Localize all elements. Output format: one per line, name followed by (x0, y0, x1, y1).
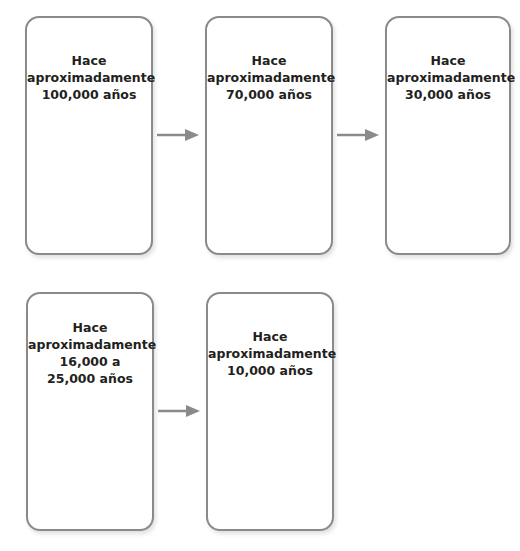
timeline-box-1-label: Hace aproximadamente 100,000 años (27, 52, 151, 103)
timeline-box-3: Hace aproximadamente 30,000 años (385, 16, 511, 255)
timeline-box-5-label: Hace aproximadamente 10,000 años (208, 328, 332, 379)
timeline-box-2-label: Hace aproximadamente 70,000 años (207, 52, 331, 103)
timeline-box-3-label: Hace aproximadamente 30,000 años (387, 52, 509, 103)
timeline-box-5: Hace aproximadamente 10,000 años (206, 292, 334, 531)
timeline-box-4: Hace aproximadamente 16,000 a 25,000 año… (26, 292, 154, 531)
arrow-right-icon (157, 127, 199, 143)
arrow-right-icon (337, 127, 379, 143)
timeline-box-2: Hace aproximadamente 70,000 años (205, 16, 333, 255)
timeline-box-4-label: Hace aproximadamente 16,000 a 25,000 año… (28, 319, 152, 387)
timeline-box-1: Hace aproximadamente 100,000 años (25, 16, 153, 255)
arrow-right-icon (158, 403, 200, 419)
